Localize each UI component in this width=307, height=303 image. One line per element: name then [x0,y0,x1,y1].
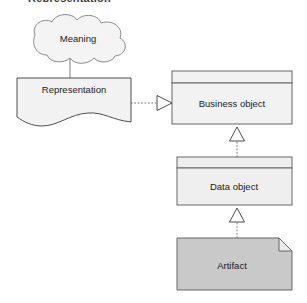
artifact-folded-corner-icon [279,238,292,251]
meaning-cloud-shape [34,15,126,64]
realization-diagram: Meaning Representation Business object D… [0,0,307,303]
business-object-header-strip [172,71,292,83]
artifact-document-shape [177,238,292,290]
node-artifact[interactable]: Artifact [177,238,292,290]
data-object-body [177,168,292,205]
node-meaning[interactable]: Meaning [34,15,126,64]
hollow-triangle-arrowhead-icon [157,96,172,111]
business-object-body [172,83,292,124]
connector-artifact-data-object[interactable] [230,208,245,238]
data-object-header-strip [177,157,292,168]
representation-document-shape [17,78,131,126]
node-data-object[interactable]: Data object [177,157,292,205]
node-representation[interactable]: Representation [17,78,131,126]
diagram-canvas: Representation Meaning [0,0,307,303]
connector-data-object-business-object[interactable] [230,127,245,157]
connector-representation-business-object[interactable] [131,96,172,111]
hollow-triangle-arrowhead-icon [230,127,245,141]
node-business-object[interactable]: Business object [172,71,292,124]
hollow-triangle-arrowhead-icon [230,208,245,222]
